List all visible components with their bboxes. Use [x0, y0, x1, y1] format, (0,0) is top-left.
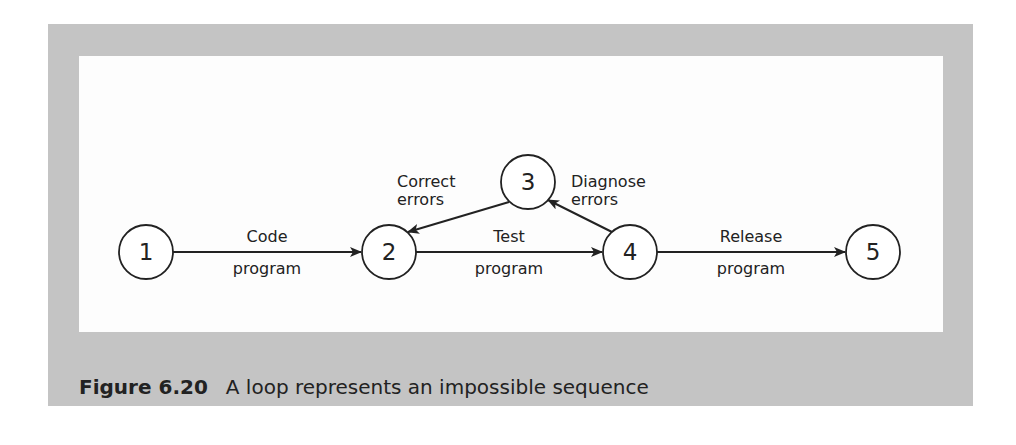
edge-label-top: Diagnose	[571, 172, 646, 191]
node-5: 5	[846, 225, 900, 279]
node-3: 3	[501, 155, 555, 209]
figure-caption: Figure 6.20A loop represents an impossib…	[79, 375, 649, 399]
caption-text: A loop represents an impossible sequence	[226, 375, 649, 399]
edge-label-bottom: program	[475, 259, 543, 278]
node-2: 2	[362, 225, 416, 279]
node-label: 2	[382, 239, 397, 265]
diagram-panel: Code program Test program Diagnose error…	[79, 56, 943, 332]
node-label: 1	[139, 239, 154, 265]
edge-label-bottom: errors	[397, 190, 444, 209]
edge-label-bottom: errors	[571, 190, 618, 209]
node-4: 4	[603, 225, 657, 279]
node-label: 5	[866, 239, 881, 265]
edge-label-top: Release	[720, 227, 783, 246]
edge-3-2: Correct errors	[397, 172, 509, 232]
edge-label-top: Code	[247, 227, 288, 246]
figure-frame: Code program Test program Diagnose error…	[48, 24, 973, 406]
network-diagram: Code program Test program Diagnose error…	[79, 56, 943, 332]
node-label: 4	[623, 239, 638, 265]
edge-4-3: Diagnose errors	[548, 172, 646, 232]
edge-label-top: Test	[492, 227, 525, 246]
node-1: 1	[119, 225, 173, 279]
figure-number: Figure 6.20	[79, 375, 208, 399]
edge-1-2: Code program	[173, 227, 361, 278]
edge-4-5: Release program	[657, 227, 845, 278]
node-label: 3	[521, 169, 536, 195]
edge-label-bottom: program	[233, 259, 301, 278]
edge-label-bottom: program	[717, 259, 785, 278]
edge-label-top: Correct	[397, 172, 455, 191]
edge-2-4: Test program	[416, 227, 602, 278]
